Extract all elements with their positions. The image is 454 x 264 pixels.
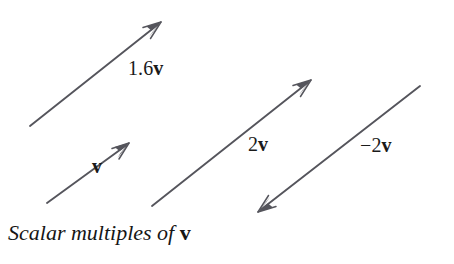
vector-label-name: v xyxy=(258,133,268,155)
vector-arrow-v xyxy=(47,143,129,203)
vector-label-name: v xyxy=(92,155,102,177)
vector-label-scalar: 1.6 xyxy=(128,57,153,79)
vector-label-scalar: −2 xyxy=(360,134,381,156)
figure-caption: Scalar multiples of v xyxy=(8,222,191,244)
vector-label-name: v xyxy=(381,134,391,156)
vector-label-minus-2v: −2v xyxy=(360,135,392,155)
vector-label-name: v xyxy=(153,57,163,79)
scalar-multiples-figure: 1.6v v 2v −2v Scalar multiples of v xyxy=(0,0,454,264)
figure-caption-text: Scalar multiples of xyxy=(8,220,174,245)
vector-label-v: v xyxy=(92,156,102,176)
figure-caption-vector: v xyxy=(180,220,191,245)
vector-arrow-2v xyxy=(152,80,311,206)
vector-label-2v: 2v xyxy=(248,134,268,154)
vector-label-1-6v: 1.6v xyxy=(128,58,163,78)
vector-label-scalar: 2 xyxy=(248,133,258,155)
vector-arrow-minus-2v xyxy=(258,86,420,212)
